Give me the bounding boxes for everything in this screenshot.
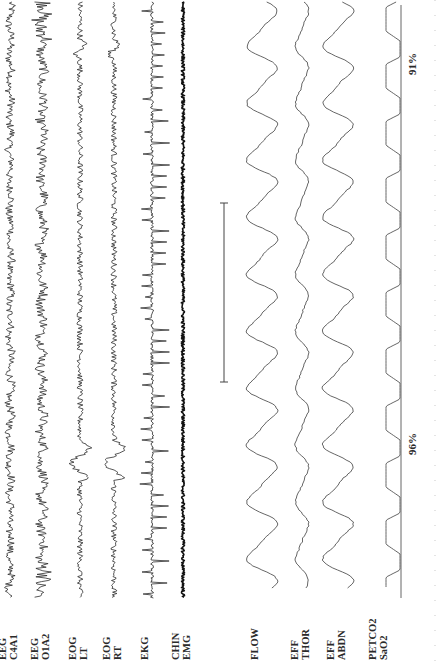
trace-ekg bbox=[140, 2, 170, 598]
channel-label-flow: FLOW bbox=[249, 627, 260, 660]
trace-eff_thor bbox=[295, 2, 310, 588]
channel-label-eog_lt: EOGLT bbox=[67, 637, 89, 660]
channel-label-eeg_c4a1: EEGC4A1 bbox=[0, 634, 19, 660]
trace-eeg_c4a1 bbox=[5, 2, 16, 597]
channel-label-petco2: PETCO2SaO2 bbox=[367, 619, 389, 660]
channel-label-ekg: EKG bbox=[139, 637, 150, 660]
sao2-annotations: 96%91% bbox=[406, 53, 418, 455]
trace-eog_rt bbox=[105, 2, 125, 597]
trace-flow bbox=[246, 2, 278, 588]
trace-petco2 bbox=[386, 2, 400, 587]
sao2-value-0: 96% bbox=[406, 433, 418, 455]
channel-label-eeg_o1a2: EEGO1A2 bbox=[29, 634, 51, 660]
channel-label-eog_rt: EOGRT bbox=[101, 637, 123, 660]
trace-chin_emg bbox=[181, 2, 184, 597]
trace-eeg_o1a2 bbox=[32, 2, 52, 597]
trace-eog_lt bbox=[69, 2, 92, 597]
channel-label-eff_thor: EFFTHOR bbox=[289, 629, 311, 660]
polysomnogram-traces: EEGC4A1EEGO1A2EOGLTEOGRTEKGCHINEMGFLOWEF… bbox=[0, 0, 436, 663]
signal-traces bbox=[5, 2, 401, 598]
polysomnogram-figure: EEGC4A1EEGO1A2EOGLTEOGRTEKGCHINEMGFLOWEF… bbox=[0, 0, 436, 663]
channel-label-chin_emg: CHINEMG bbox=[170, 632, 192, 660]
channel-label-eff_abdn: EFFABDN bbox=[325, 630, 347, 660]
channel-labels: EEGC4A1EEGO1A2EOGLTEOGRTEKGCHINEMGFLOWEF… bbox=[0, 619, 389, 660]
trace-eff_abdn bbox=[322, 2, 354, 588]
sao2-value-1: 91% bbox=[406, 53, 418, 75]
